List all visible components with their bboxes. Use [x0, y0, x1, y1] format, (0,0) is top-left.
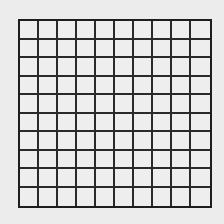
grid-cell — [153, 151, 172, 170]
grid-cell — [153, 40, 172, 59]
grid-cell — [134, 151, 153, 170]
grid-cell — [115, 151, 134, 170]
grid-cell — [20, 169, 39, 188]
grid-cell — [134, 114, 153, 133]
grid-cell — [172, 40, 191, 59]
grid-cell — [115, 114, 134, 133]
grid-cell — [39, 95, 58, 114]
grid-cell — [153, 169, 172, 188]
grid-cell — [96, 21, 115, 40]
grid-cell — [77, 58, 96, 77]
grid-cell — [115, 95, 134, 114]
grid-cell — [20, 95, 39, 114]
grid-cell — [58, 58, 77, 77]
grid-cell — [58, 21, 77, 40]
grid-cell — [77, 40, 96, 59]
grid-cell — [172, 169, 191, 188]
grid-cell — [77, 77, 96, 96]
grid-cell — [39, 114, 58, 133]
grid-cell — [134, 58, 153, 77]
grid-cell — [96, 169, 115, 188]
grid-cell — [77, 132, 96, 151]
grid-cell — [39, 151, 58, 170]
grid-cell — [39, 169, 58, 188]
grid-cell — [77, 21, 96, 40]
grid-cell — [39, 40, 58, 59]
grid-cell — [153, 188, 172, 207]
grid-cell — [20, 58, 39, 77]
grid-cell — [115, 40, 134, 59]
grid-cell — [172, 77, 191, 96]
grid-cell — [39, 77, 58, 96]
grid-cell — [191, 58, 210, 77]
grid-cell — [58, 40, 77, 59]
grid-cell — [172, 188, 191, 207]
grid-cell — [77, 188, 96, 207]
grid-cell — [77, 114, 96, 133]
grid-cell — [20, 132, 39, 151]
grid-cell — [134, 21, 153, 40]
grid-cell — [20, 151, 39, 170]
grid-cell — [58, 188, 77, 207]
grid-cell — [153, 58, 172, 77]
grid-cell — [134, 132, 153, 151]
grid-cell — [172, 132, 191, 151]
grid-cell — [77, 169, 96, 188]
grid-cell — [153, 114, 172, 133]
grid-cell — [96, 58, 115, 77]
grid-cell — [39, 21, 58, 40]
grid-cell — [134, 40, 153, 59]
grid-cell — [134, 77, 153, 96]
grid-cell — [153, 132, 172, 151]
grid-cell — [153, 21, 172, 40]
grid-cell — [77, 151, 96, 170]
grid-cell — [96, 40, 115, 59]
grid-cell — [58, 132, 77, 151]
grid-cell — [58, 151, 77, 170]
grid-cell — [191, 188, 210, 207]
grid-cell — [96, 95, 115, 114]
grid-cell — [191, 151, 210, 170]
grid-cell — [172, 95, 191, 114]
square-grid — [18, 19, 212, 208]
grid-cell — [191, 132, 210, 151]
grid-cell — [96, 151, 115, 170]
grid-cell — [58, 114, 77, 133]
grid-cell — [39, 188, 58, 207]
grid-cell — [20, 114, 39, 133]
grid-cell — [115, 58, 134, 77]
grid-cell — [191, 114, 210, 133]
grid-cell — [191, 21, 210, 40]
grid-cell — [115, 132, 134, 151]
grid-cell — [172, 58, 191, 77]
grid-cell — [39, 58, 58, 77]
grid-cell — [134, 169, 153, 188]
grid-cell — [172, 21, 191, 40]
grid-cell — [58, 169, 77, 188]
grid-cell — [58, 95, 77, 114]
grid-cell — [153, 95, 172, 114]
grid-cell — [115, 188, 134, 207]
grid-cell — [115, 169, 134, 188]
grid-cell — [77, 95, 96, 114]
grid-cell — [191, 169, 210, 188]
grid-cell — [172, 114, 191, 133]
grid-cell — [20, 77, 39, 96]
grid-cell — [134, 188, 153, 207]
grid-cell — [96, 114, 115, 133]
grid-cell — [96, 188, 115, 207]
grid-cell — [96, 77, 115, 96]
grid-cell — [39, 132, 58, 151]
grid-cell — [191, 77, 210, 96]
grid-cell — [115, 21, 134, 40]
grid-cell — [96, 132, 115, 151]
grid-cell — [115, 77, 134, 96]
grid-cell — [134, 95, 153, 114]
grid-cell — [20, 40, 39, 59]
grid-cell — [58, 77, 77, 96]
grid-cell — [20, 21, 39, 40]
grid-cell — [153, 77, 172, 96]
grid-cell — [20, 188, 39, 207]
grid-cell — [191, 95, 210, 114]
grid-cell — [172, 151, 191, 170]
